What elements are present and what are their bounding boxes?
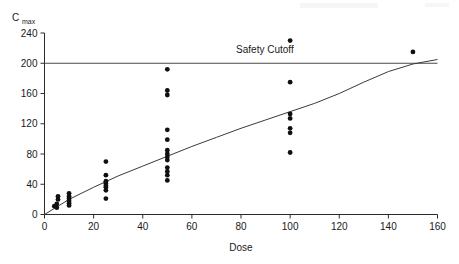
safety-cutoff-label: Safety Cutoff — [236, 44, 294, 55]
data-point — [288, 150, 293, 155]
y-tick-label-40: 40 — [26, 179, 38, 190]
chart-figure: 04080120160200240 020406080100120140160 … — [0, 0, 459, 264]
y-axis: 04080120160200240 — [21, 28, 45, 221]
data-point — [104, 173, 109, 178]
data-point — [67, 191, 72, 196]
x-tick-label-20: 20 — [88, 221, 100, 232]
data-point — [288, 126, 293, 131]
scan-artifact-top-right — [425, 3, 449, 7]
y-axis-title: C max — [12, 12, 36, 25]
y-tick-label-0: 0 — [32, 209, 38, 220]
data-point — [104, 179, 109, 184]
y-axis-tick-labels: 04080120160200240 — [21, 28, 38, 221]
data-point — [165, 137, 170, 142]
x-tick-label-40: 40 — [137, 221, 149, 232]
y-axis-title-subscript: max — [22, 18, 36, 25]
x-tick-label-120: 120 — [331, 221, 348, 232]
y-axis-title-main: C — [12, 12, 19, 23]
data-point — [56, 194, 61, 199]
y-tick-label-200: 200 — [21, 58, 38, 69]
y-tick-label-120: 120 — [21, 118, 38, 129]
x-tick-label-140: 140 — [380, 221, 397, 232]
y-axis-ticks — [41, 33, 45, 215]
x-tick-label-60: 60 — [186, 221, 198, 232]
data-point — [165, 148, 170, 153]
data-point — [165, 67, 170, 72]
x-tick-label-0: 0 — [42, 221, 48, 232]
data-point — [104, 159, 109, 164]
data-point — [165, 127, 170, 132]
data-point — [165, 178, 170, 183]
y-tick-label-160: 160 — [21, 88, 38, 99]
data-point — [165, 93, 170, 98]
scan-artifact-top-left — [300, 3, 378, 8]
y-tick-label-80: 80 — [26, 149, 38, 160]
data-point — [411, 50, 416, 55]
data-point — [54, 202, 59, 207]
data-point — [288, 112, 293, 117]
data-point — [288, 38, 293, 43]
x-tick-label-100: 100 — [282, 221, 299, 232]
data-point — [165, 165, 170, 170]
x-tick-label-160: 160 — [429, 221, 446, 232]
data-points — [52, 38, 415, 210]
fitted-curve — [45, 59, 438, 214]
x-axis: 020406080100120140160 — [42, 215, 447, 232]
scatter-plot: 04080120160200240 020406080100120140160 … — [0, 0, 459, 264]
x-tick-label-80: 80 — [235, 221, 247, 232]
data-point — [165, 88, 170, 93]
x-axis-tick-labels: 020406080100120140160 — [42, 221, 447, 232]
x-axis-ticks — [45, 215, 438, 219]
data-point — [288, 80, 293, 85]
data-point — [288, 130, 293, 135]
y-tick-label-240: 240 — [21, 28, 38, 39]
data-point — [104, 196, 109, 201]
data-point — [288, 116, 293, 121]
x-axis-title: Dose — [229, 242, 253, 253]
